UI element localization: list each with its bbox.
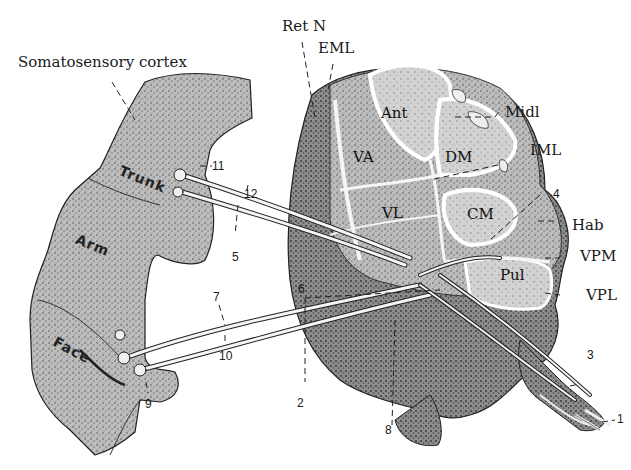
iml-label: IML [530, 143, 561, 158]
cortex-label: Somatosensory cortex [18, 55, 187, 70]
nucleus-dm: DM [445, 150, 472, 165]
vpm-label: VPM [580, 249, 616, 264]
callout-2: 2 [297, 397, 304, 409]
callout-12: 12 [244, 188, 257, 200]
callout-11: 11 [212, 160, 224, 172]
cortex-shape [30, 74, 252, 456]
callout-3: 3 [587, 349, 594, 361]
nucleus-va: VA [353, 150, 374, 165]
callout-9: 9 [145, 398, 152, 410]
nucleus-ant: Ant [381, 106, 408, 121]
callout-7: 7 [213, 291, 220, 303]
hab-label: Hab [572, 218, 604, 233]
callout-4: 4 [553, 188, 560, 200]
eml-label: EML [318, 41, 354, 56]
nucleus-cm: CM [467, 207, 494, 222]
callout-6: 6 [298, 283, 305, 295]
callout-5: 5 [232, 251, 239, 263]
midl-label: Midl [505, 105, 540, 120]
nucleus-pul: Pul [500, 268, 525, 283]
ret-n-label: Ret N [282, 19, 326, 34]
callout-10: 10 [219, 350, 232, 362]
thalamocortical-diagram: Somatosensory cortex Ret N EML Midl IML … [0, 0, 631, 470]
vpl-label: VPL [586, 288, 617, 303]
callout-8: 8 [385, 424, 392, 436]
nucleus-vl: VL [382, 206, 403, 221]
callout-1: 1 [617, 413, 624, 425]
